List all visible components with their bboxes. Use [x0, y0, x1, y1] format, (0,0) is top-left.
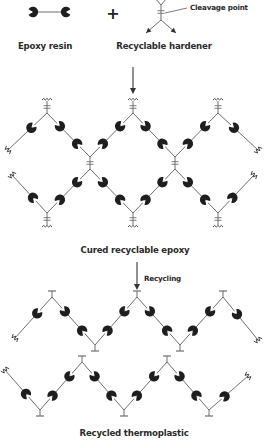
label-epoxy-resin: Epoxy resin — [18, 41, 72, 51]
label-recyclable-hardener: Recyclable hardener — [116, 41, 211, 51]
bond-line — [175, 113, 218, 157]
chain-continuation-icon — [5, 146, 11, 154]
label-cleavage-point: Cleavage point — [190, 3, 248, 12]
chain-continuation-icon — [245, 372, 251, 380]
bond-line — [47, 113, 90, 157]
chain-continuation-icon — [254, 337, 262, 343]
chain-continuation-icon — [42, 225, 52, 227]
bond-line — [175, 169, 218, 213]
label-recycling: Recycling — [144, 274, 181, 283]
chain-continuation-icon — [213, 225, 223, 227]
bond-line — [95, 297, 137, 345]
epoxy-recycling-diagram — [0, 0, 268, 442]
bond-line — [40, 362, 82, 410]
bond-line — [167, 362, 209, 410]
bond-line — [133, 169, 175, 213]
bond-line — [218, 175, 254, 213]
arrow-down-icon — [134, 284, 140, 290]
plus-sign: + — [106, 4, 119, 23]
chain-continuation-icon — [42, 98, 52, 100]
chain-continuation-icon — [128, 98, 138, 100]
bond-line — [90, 113, 133, 157]
bond-line — [15, 297, 52, 338]
bond-line — [8, 113, 47, 150]
bond-line — [133, 113, 175, 157]
chain-continuation-icon — [128, 225, 138, 227]
bond-line — [82, 362, 124, 410]
bond-line — [137, 297, 180, 345]
bond-line — [218, 113, 258, 150]
bond-line — [90, 169, 133, 213]
label-cured-recyclable-epoxy: Cured recyclable epoxy — [81, 245, 190, 255]
bond-line — [124, 362, 167, 410]
bond-line — [223, 297, 258, 340]
chain-continuation-icon — [8, 172, 16, 178]
epoxy-monomer-icon — [232, 309, 242, 319]
chain-continuation-icon — [213, 98, 223, 100]
hardener-top-arms — [155, 0, 167, 5]
bond-line — [180, 297, 223, 345]
chain-continuation-icon — [1, 367, 9, 373]
arrow-down-icon — [130, 88, 136, 94]
bond-line — [52, 297, 95, 345]
bond-line — [47, 169, 90, 213]
bond-line — [5, 370, 40, 410]
cleavage-pointer-line — [165, 8, 187, 13]
label-recycled-thermoplastic: Recycled thermoplastic — [79, 428, 188, 438]
